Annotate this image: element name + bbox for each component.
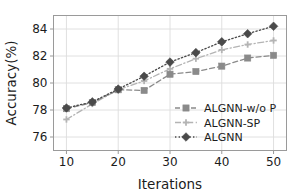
y-tick-label: 84 <box>32 22 47 36</box>
data-point-marker-square <box>270 52 276 58</box>
y-tick-label: 80 <box>32 76 47 90</box>
y-tick-label: 82 <box>32 49 47 63</box>
x-tick-label: 20 <box>111 155 126 169</box>
data-point-marker-square <box>245 55 251 61</box>
x-axis-label: Iterations <box>138 176 202 192</box>
data-point-marker-square <box>183 105 189 111</box>
y-tick-label: 78 <box>32 103 47 117</box>
legend-item-label: ALGNN <box>204 131 243 144</box>
x-tick-label: 30 <box>162 155 177 169</box>
legend-item-label: ALGNN-SP <box>204 117 261 130</box>
data-point-marker-square <box>193 68 199 74</box>
data-point-marker-square <box>219 63 225 69</box>
y-axis-label: Accuracy(%) <box>3 41 19 126</box>
x-tick-label: 10 <box>59 155 74 169</box>
y-tick-label: 76 <box>32 130 47 144</box>
x-tick-label: 50 <box>266 155 281 169</box>
data-point-marker-square <box>167 71 173 77</box>
x-tick-label: 40 <box>214 155 229 169</box>
legend-item-label: ALGNN-w/o P <box>204 102 277 115</box>
data-point-marker-square <box>141 87 147 93</box>
accuracy-vs-iterations-line-chart: 7678808284 1020304050 Accuracy(%) Iterat… <box>0 0 300 194</box>
chart-figure: 7678808284 1020304050 Accuracy(%) Iterat… <box>0 0 300 194</box>
